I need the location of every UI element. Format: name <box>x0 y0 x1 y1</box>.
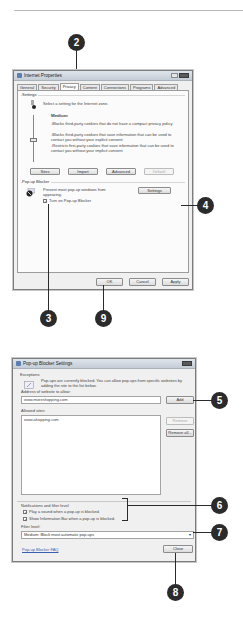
allowed-site-item[interactable]: www.ahopping.com <box>24 417 160 422</box>
allowed-sites-list[interactable]: www.ahopping.com <box>21 415 161 495</box>
apply-button[interactable]: Apply <box>162 278 189 286</box>
add-button[interactable]: Add <box>166 396 194 404</box>
dialog-title: Internet Properties <box>24 73 62 78</box>
page-divider <box>14 10 243 11</box>
callout-6-bracket-bottom <box>122 520 128 521</box>
privacy-level: Medium <box>51 114 68 119</box>
callout-8-line <box>175 553 176 586</box>
popup-settings-button[interactable]: Settings <box>138 187 171 194</box>
play-sound-checkbox[interactable]: ✓ <box>23 510 27 514</box>
turn-on-popup-blocker-checkbox[interactable]: ✓ <box>43 199 47 203</box>
settings-group-line <box>21 95 185 96</box>
titlebar: Pop-up Blocker Settings <box>13 359 195 369</box>
close-button[interactable] <box>179 73 189 78</box>
filter-level-value: Medium: Block most automatic pop-ups <box>24 532 94 537</box>
ok-button[interactable]: OK <box>96 278 123 286</box>
allowed-sites-label: Allowed sites: <box>21 409 45 414</box>
popup-blocker-icon <box>26 188 35 197</box>
import-button[interactable]: Import <box>68 168 98 175</box>
callout-3: 3 <box>40 310 57 327</box>
popup-blocker-settings-dialog: Pop-up Blocker Settings Exceptions Pop-u… <box>12 358 196 562</box>
privacy-slider-thumb[interactable] <box>30 138 37 142</box>
remove-button[interactable]: Remove <box>166 417 194 425</box>
dialog-title: Pop-up Blocker Settings <box>23 361 72 366</box>
advanced-button[interactable]: Advanced <box>106 168 136 175</box>
privacy-zone-icon <box>30 100 37 109</box>
callout-6: 6 <box>211 497 228 514</box>
callout-5-line <box>193 400 212 401</box>
exceptions-icon <box>24 381 34 389</box>
popup-settings-icon <box>16 361 21 366</box>
exceptions-description: Pop-ups are currently blocked. You can a… <box>41 379 191 388</box>
titlebar: Internet Properties <box>14 71 192 81</box>
help-button[interactable] <box>171 73 178 78</box>
show-infobar-checkbox[interactable]: ✓ <box>23 517 27 521</box>
callout-7: 7 <box>211 524 228 541</box>
remove-all-button[interactable]: Remove all... <box>166 429 194 437</box>
filter-level-label: Filter level: <box>21 525 40 530</box>
internet-options-icon <box>17 73 22 78</box>
settings-group-label: Settings <box>22 92 38 97</box>
callout-3-line <box>48 204 49 311</box>
default-button[interactable]: Default <box>144 168 174 175</box>
popup-blocker-faq-link[interactable]: Pop-up Blocker FAQ <box>22 547 58 552</box>
play-sound-label: Play a sound when a pop-up is blocked. <box>29 510 100 515</box>
privacy-tab-panel: Settings Select a setting for the Intern… <box>17 90 189 273</box>
settings-intro: Select a setting for the Internet zone. <box>43 102 183 107</box>
tab-bar: General Security Privacy Content Connect… <box>14 81 192 90</box>
divider <box>17 501 191 502</box>
privacy-bullet-1: -Blocks third-party cookies that do not … <box>51 122 176 127</box>
exceptions-group-label: Exceptions <box>20 373 40 378</box>
callout-7-line <box>193 532 212 533</box>
website-address-input[interactable]: www.moreshopping.com <box>21 396 161 404</box>
callout-4-line <box>181 205 198 206</box>
notifications-group-label: Notifications and filter level <box>21 504 69 509</box>
privacy-bullet-3: -Restricts first-party cookies that save… <box>51 144 176 153</box>
close-button[interactable]: Close <box>163 545 193 553</box>
callout-2: 2 <box>68 34 85 51</box>
cancel-button[interactable]: Cancel <box>129 278 156 286</box>
callout-6-bracket <box>127 498 128 520</box>
callout-9: 9 <box>95 310 112 327</box>
popup-group-label: Pop-up Blocker <box>22 179 51 184</box>
callout-8: 8 <box>167 584 184 601</box>
callout-9-line <box>103 285 104 311</box>
callout-6-bracket-top <box>122 498 128 499</box>
show-infobar-label: Show Information Bar when a pop-up is bl… <box>29 517 115 522</box>
popup-description: Prevent most pop-up windows from appeari… <box>43 188 113 197</box>
privacy-bullet-2: -Blocks third-party cookies that save in… <box>51 133 176 142</box>
filter-level-select[interactable]: Medium: Block most automatic pop-ups ▾ <box>21 531 194 539</box>
dropdown-arrow-icon: ▾ <box>189 532 191 538</box>
callout-4: 4 <box>197 197 214 214</box>
internet-properties-dialog: Internet Properties General Security Pri… <box>13 70 193 290</box>
callout-6-line <box>128 505 212 506</box>
address-label: Address of website to allow: <box>21 390 71 395</box>
callout-5: 5 <box>211 392 228 409</box>
close-x-button[interactable] <box>182 361 192 366</box>
turn-on-popup-blocker-label: Turn on Pop-up Blocker <box>49 199 91 204</box>
sites-button[interactable]: Sites <box>30 168 60 175</box>
